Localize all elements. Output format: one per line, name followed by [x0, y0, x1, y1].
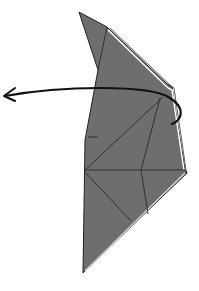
folded-paper-shape: [79, 12, 187, 273]
origami-diagram: [0, 0, 199, 291]
